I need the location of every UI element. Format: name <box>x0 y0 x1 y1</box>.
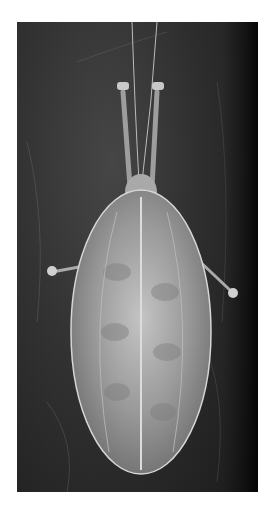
katydid-illustration <box>17 22 258 492</box>
insect-photograph <box>17 22 258 492</box>
